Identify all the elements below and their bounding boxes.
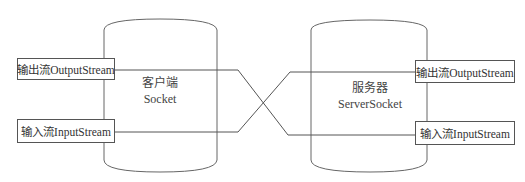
server-output-stream-label: 输出流OutputStream (416, 64, 514, 80)
client-input-stream-label: 输入流InputStream (21, 123, 111, 139)
server-output-stream-box: 输出流OutputStream (415, 60, 515, 83)
server-title: 服务器 (330, 80, 410, 96)
server-input-stream-label: 输入流InputStream (420, 125, 510, 141)
client-output-stream-box: 输出流OutputStream (17, 58, 115, 80)
client-label: 客户端 Socket (130, 75, 190, 107)
client-input-stream-box: 输入流InputStream (17, 119, 115, 143)
diagram-canvas (0, 0, 525, 182)
client-subtitle: Socket (130, 91, 190, 107)
client-title: 客户端 (130, 75, 190, 91)
server-input-stream-box: 输入流InputStream (415, 121, 515, 145)
client-output-stream-label: 输出流OutputStream (17, 61, 115, 77)
server-label: 服务器 ServerSocket (330, 80, 410, 112)
server-subtitle: ServerSocket (330, 96, 410, 112)
